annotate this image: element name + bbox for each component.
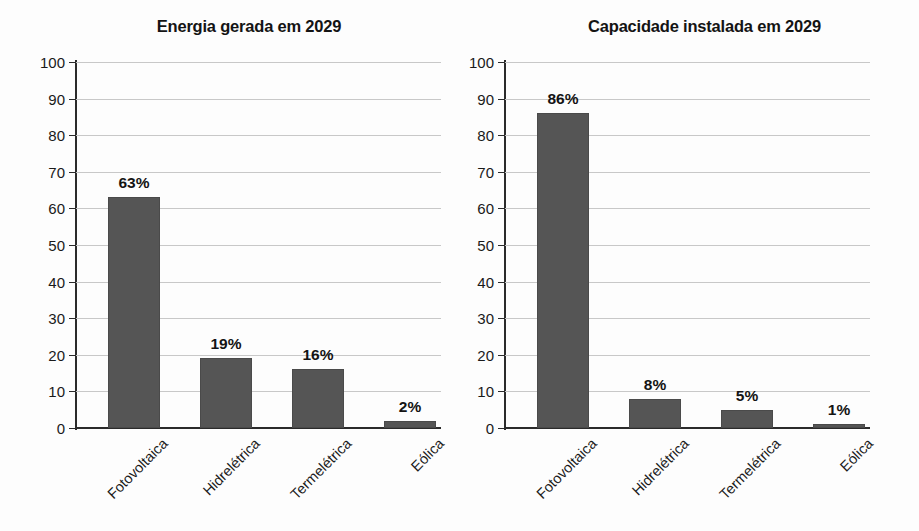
bar[interactable]: [629, 399, 681, 428]
bar-series: 86%8%5%1%: [505, 62, 870, 428]
y-axis-tick-label: 60: [48, 201, 65, 216]
y-axis-tick: [498, 318, 505, 319]
chart-title: Capacidade instalada em 2029: [460, 17, 919, 36]
y-axis-tick: [498, 355, 505, 356]
bar-slot: [94, 62, 174, 428]
y-axis-tick-label: 70: [477, 164, 494, 179]
y-axis-tick: [69, 245, 76, 246]
y-axis-tick-label: 30: [477, 311, 494, 326]
bar-value-label: 16%: [278, 347, 358, 363]
y-axis-tick: [498, 428, 505, 429]
y-axis-tick: [69, 428, 76, 429]
x-axis-category-label: Hidrelétrica: [629, 436, 691, 498]
bar-slot: [370, 62, 450, 428]
y-axis-tick-label: 40: [48, 274, 65, 289]
bar[interactable]: [384, 421, 436, 428]
plot-area-left: 0102030405060708090100 63%19%16%2% Fotov…: [76, 62, 441, 428]
y-axis-tick: [498, 282, 505, 283]
y-axis-tick-label: 90: [477, 91, 494, 106]
y-axis-tick-label: 50: [477, 238, 494, 253]
bar-series: 63%19%16%2%: [76, 62, 441, 428]
bar-value-label: 86%: [523, 91, 603, 107]
bar-slot: [615, 62, 695, 428]
bar[interactable]: [200, 358, 252, 428]
bar[interactable]: [813, 424, 865, 428]
bar-value-label: 1%: [799, 402, 879, 418]
x-axis-category-label: Fotovoltaica: [105, 436, 171, 502]
y-axis-tick-label: 80: [48, 128, 65, 143]
y-axis-tick-label: 100: [40, 55, 65, 70]
chart-page: Energia gerada em 2029 01020304050607080…: [0, 0, 919, 531]
y-axis-tick: [69, 355, 76, 356]
bar-value-label: 19%: [186, 336, 266, 352]
x-axis-category-label: Termelétrica: [288, 436, 354, 502]
bar-slot: [707, 62, 787, 428]
y-axis-tick-label: 80: [477, 128, 494, 143]
y-axis-tick-label: 0: [57, 421, 65, 436]
y-axis-tick-label: 100: [469, 55, 494, 70]
bar[interactable]: [292, 369, 344, 428]
y-axis-tick-label: 0: [486, 421, 494, 436]
y-axis-tick-label: 30: [48, 311, 65, 326]
y-axis-tick-label: 40: [477, 274, 494, 289]
chart-panel-energia-gerada: Energia gerada em 2029 01020304050607080…: [0, 0, 460, 531]
x-axis-category-label: Eólica: [408, 436, 446, 474]
y-axis-tick: [498, 208, 505, 209]
x-axis-category-label: Fotovoltaica: [534, 436, 600, 502]
y-axis-tick: [498, 135, 505, 136]
y-axis-tick: [69, 208, 76, 209]
y-axis-tick-label: 20: [477, 347, 494, 362]
y-axis-tick: [69, 99, 76, 100]
y-axis-tick: [498, 172, 505, 173]
y-axis-tick-label: 60: [477, 201, 494, 216]
y-axis-tick: [498, 99, 505, 100]
y-axis-tick: [69, 62, 76, 63]
bar[interactable]: [108, 197, 160, 428]
y-axis-tick: [69, 282, 76, 283]
y-axis-tick: [69, 135, 76, 136]
x-axis-category-label: Hidrelétrica: [200, 436, 262, 498]
bar-slot: [278, 62, 358, 428]
bar-slot: [523, 62, 603, 428]
y-axis-tick: [498, 391, 505, 392]
bar-value-label: 63%: [94, 175, 174, 191]
y-axis-tick-label: 10: [477, 384, 494, 399]
y-axis-tick-label: 10: [48, 384, 65, 399]
bar-value-label: 8%: [615, 377, 695, 393]
y-axis-tick-label: 50: [48, 238, 65, 253]
chart-panel-capacidade-instalada: Capacidade instalada em 2029 01020304050…: [460, 0, 919, 531]
y-axis-tick: [498, 62, 505, 63]
bar-value-label: 2%: [370, 399, 450, 415]
bar-slot: [799, 62, 879, 428]
y-axis-tick: [69, 391, 76, 392]
bar-value-label: 5%: [707, 388, 787, 404]
y-axis-tick: [498, 245, 505, 246]
bar[interactable]: [537, 113, 589, 428]
y-axis-tick-label: 70: [48, 164, 65, 179]
y-axis-tick: [69, 318, 76, 319]
y-axis-tick-label: 90: [48, 91, 65, 106]
chart-title: Energia gerada em 2029: [0, 17, 460, 36]
y-axis-tick-label: 20: [48, 347, 65, 362]
x-axis-category-label: Eólica: [837, 436, 875, 474]
y-axis-tick: [69, 172, 76, 173]
x-axis-category-label: Termelétrica: [717, 436, 783, 502]
plot-area-right: 0102030405060708090100 86%8%5%1% Fotovol…: [505, 62, 870, 428]
bar-slot: [186, 62, 266, 428]
bar[interactable]: [721, 410, 773, 428]
